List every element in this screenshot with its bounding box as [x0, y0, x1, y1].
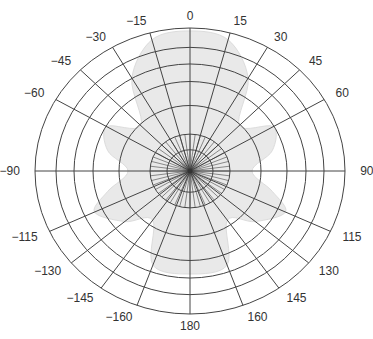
polar-chart: 01530456090115130145160180−160−145−130−1…	[0, 0, 373, 339]
angle-label: −115	[11, 230, 37, 244]
center-point	[188, 169, 193, 174]
angle-label: 15	[234, 14, 248, 28]
angle-label: −60	[24, 86, 45, 100]
angle-label: −30	[86, 30, 107, 44]
angle-label: −15	[126, 14, 147, 28]
angle-label: −90	[0, 164, 20, 178]
angle-label: −160	[105, 310, 132, 324]
angle-label: −45	[51, 54, 72, 68]
angle-label: 145	[287, 291, 307, 305]
angle-label: 0	[187, 9, 194, 23]
angle-label: −130	[34, 264, 61, 278]
angle-label: 180	[180, 319, 200, 333]
angle-label: 30	[274, 30, 288, 44]
angle-label: 130	[319, 264, 339, 278]
angle-label: 90	[360, 164, 373, 178]
angle-label: 60	[336, 86, 350, 100]
angle-label: 160	[248, 310, 268, 324]
angle-label: 45	[309, 54, 323, 68]
angle-label: −145	[66, 291, 93, 305]
angle-label: 115	[342, 230, 361, 244]
